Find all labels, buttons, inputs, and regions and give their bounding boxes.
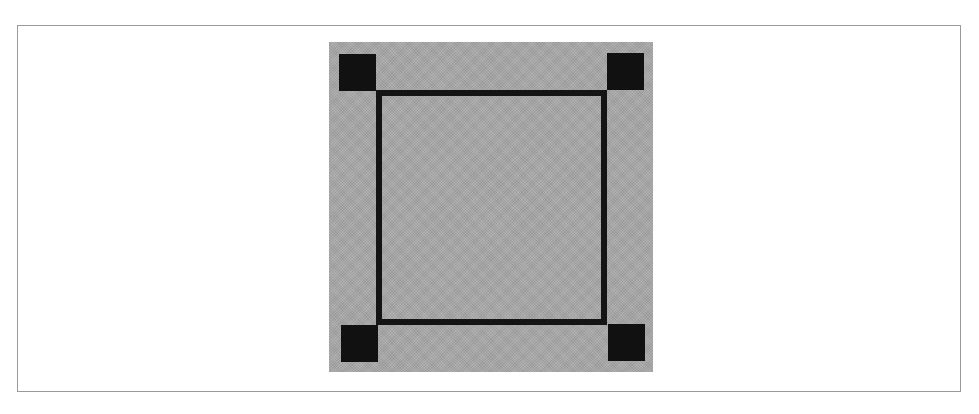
corner-handle-top-right [607,53,644,90]
corner-handle-bottom-right [608,324,645,361]
corner-handle-top-left [339,54,376,91]
corner-handle-bottom-left [341,325,378,362]
square-outline [376,90,607,325]
